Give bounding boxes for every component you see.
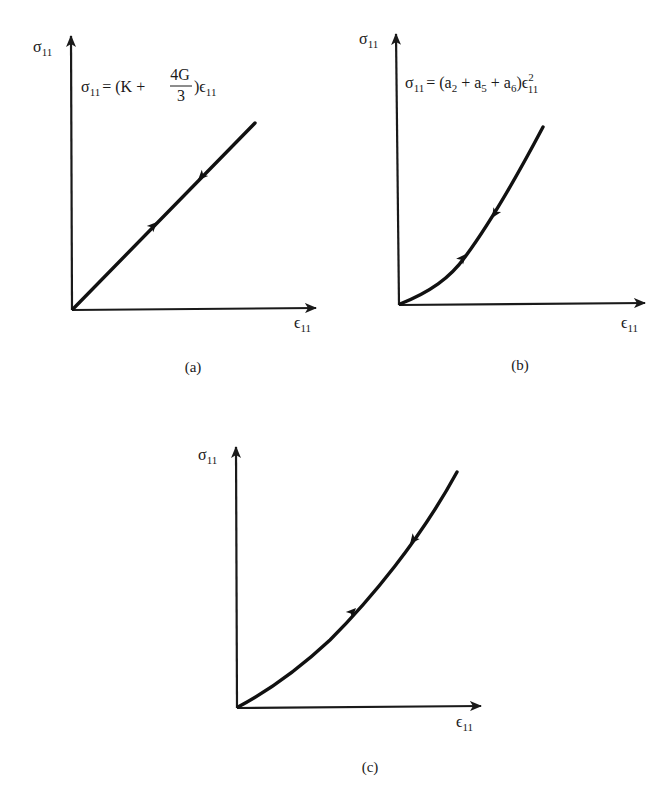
x-axis bbox=[237, 706, 481, 708]
x-axis-label: ϵ11 bbox=[294, 314, 311, 334]
panel-caption: (c) bbox=[362, 759, 379, 776]
y-axis bbox=[71, 36, 72, 310]
panel-caption: (a) bbox=[185, 359, 202, 376]
svg-text:)ϵ11: )ϵ11 bbox=[194, 78, 216, 98]
equation-linear: σ11= (K + 4G 3 )ϵ11 bbox=[81, 66, 216, 104]
x-axis bbox=[399, 303, 645, 305]
x-axis bbox=[72, 308, 316, 310]
y-axis bbox=[236, 447, 237, 708]
panel-c: σ11 ϵ11 (c) bbox=[198, 446, 481, 776]
panel-b: σ11 ϵ11 σ11= (a2 + a5 + a6)ϵ211 (b) bbox=[359, 30, 645, 374]
stress-strain-curve bbox=[238, 472, 457, 707]
stress-strain-curve bbox=[73, 123, 255, 309]
equation-quadratic: σ11= (a2 + a5 + a6)ϵ211 bbox=[405, 71, 538, 95]
panel-a: σ11 ϵ11 σ11= (K + 4G 3 )ϵ11 (a) bbox=[33, 36, 316, 376]
y-axis-label: σ11 bbox=[33, 38, 52, 58]
y-axis bbox=[396, 34, 399, 305]
panel-caption: (b) bbox=[511, 357, 529, 374]
svg-text:σ11= (K +: σ11= (K + bbox=[81, 78, 145, 98]
stress-strain-figure: σ11 ϵ11 σ11= (K + 4G 3 )ϵ11 (a) σ11 bbox=[0, 0, 671, 798]
y-axis-label: σ11 bbox=[198, 446, 217, 466]
y-axis-label: σ11 bbox=[359, 30, 378, 50]
stress-strain-curve bbox=[400, 127, 543, 304]
x-axis-label: ϵ11 bbox=[456, 713, 473, 733]
fraction-numerator: 4G bbox=[170, 66, 190, 83]
x-axis-label: ϵ11 bbox=[621, 314, 638, 334]
fraction-denominator: 3 bbox=[177, 87, 185, 104]
